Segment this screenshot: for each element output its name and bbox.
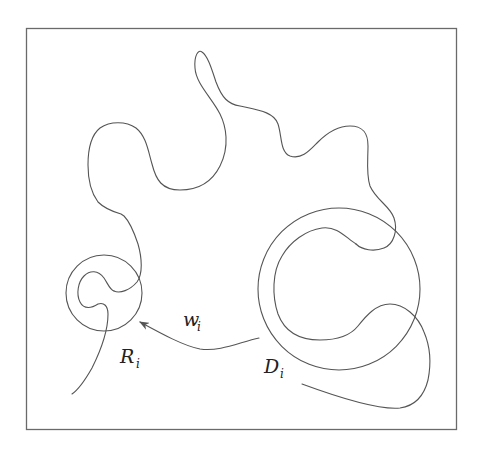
svg-text:D: D (263, 355, 279, 377)
label-w: w i (183, 308, 201, 334)
inner-loop (274, 228, 430, 408)
label-d: D i (263, 355, 284, 381)
svg-text:i: i (280, 367, 284, 381)
label-r: R i (119, 345, 140, 371)
diagram-canvas: w i R i D i (0, 0, 481, 454)
small-circle-hook (72, 272, 114, 394)
svg-text:R: R (119, 345, 134, 367)
svg-text:i: i (136, 357, 140, 371)
svg-text:i: i (197, 320, 201, 334)
wandering-curve (88, 51, 396, 292)
